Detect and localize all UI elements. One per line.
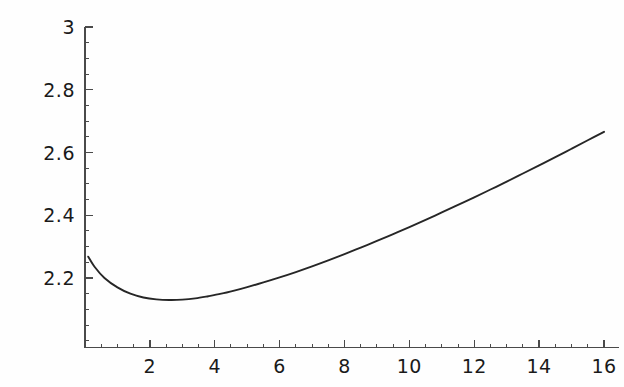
y-tick-label: 2.8: [43, 79, 75, 101]
line-chart-canvas: 2.22.42.62.83 246810121416: [0, 0, 624, 387]
y-tick-label: 2.2: [43, 267, 75, 289]
y-tick-label: 2.4: [43, 204, 75, 226]
plot-background: [0, 0, 624, 387]
x-tick-label: 4: [208, 355, 221, 377]
x-tick-label: 14: [527, 355, 552, 377]
x-tick-label: 8: [338, 355, 351, 377]
x-tick-label: 12: [462, 355, 487, 377]
x-tick-label: 2: [144, 355, 157, 377]
y-tick-label: 2.6: [43, 142, 75, 164]
x-tick-label: 16: [591, 355, 616, 377]
x-tick-label: 6: [273, 355, 286, 377]
x-tick-label: 10: [397, 355, 422, 377]
y-tick-label: 3: [62, 16, 75, 38]
chart-figure: 2.22.42.62.83 246810121416: [0, 0, 624, 387]
